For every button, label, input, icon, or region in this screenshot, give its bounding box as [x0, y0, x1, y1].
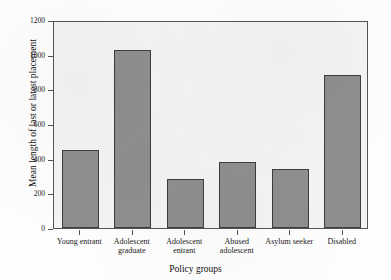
x-axis-tick-label-line: Disabled: [316, 238, 369, 247]
x-axis-tick-label: Adolescententrant: [158, 238, 211, 256]
x-axis-title: Policy groups: [0, 264, 391, 274]
bar: [62, 150, 99, 228]
bar: [167, 179, 204, 228]
y-axis-tick: [48, 229, 53, 230]
y-axis-tick-label: 0: [5, 225, 45, 233]
y-axis-tick-label: 800: [5, 86, 45, 94]
x-axis-tick: [132, 230, 133, 235]
y-axis-tick-label: 400: [5, 156, 45, 164]
x-axis-tick-label-line: Young entrant: [53, 238, 106, 247]
y-axis-tick-label: 200: [5, 190, 45, 198]
bars-container: [54, 22, 367, 228]
x-axis-tick: [184, 230, 185, 235]
bar-chart-figure: Mean length of last or latest placement …: [0, 0, 391, 280]
y-axis-tick-label: 600: [5, 121, 45, 129]
bar: [272, 169, 309, 228]
x-axis-tick: [342, 230, 343, 235]
y-axis-tick-label: 1200: [5, 17, 45, 25]
x-axis-tick-label-line: Asylum seeker: [263, 238, 316, 247]
y-axis-tick-label: 1000: [5, 52, 45, 60]
bar: [219, 162, 256, 228]
x-axis-tick-label: Adolescentgraduate: [106, 238, 159, 256]
bar: [114, 50, 151, 228]
x-axis-tick-label-line: graduate: [106, 247, 159, 256]
x-axis-tick: [237, 230, 238, 235]
bar: [324, 75, 361, 228]
plot-area: [53, 21, 368, 229]
y-axis-title: Mean length of last or latest placement: [28, 18, 38, 208]
x-axis-tick-label-line: entrant: [158, 247, 211, 256]
x-axis-tick: [79, 230, 80, 235]
x-axis-tick-label: Disabled: [316, 238, 369, 247]
x-axis-tick: [289, 230, 290, 235]
x-axis-tick-label: Abusedadolescent: [211, 238, 264, 256]
x-axis-tick-label: Young entrant: [53, 238, 106, 247]
x-axis-tick-label-line: adolescent: [211, 247, 264, 256]
x-axis-tick-label: Asylum seeker: [263, 238, 316, 247]
